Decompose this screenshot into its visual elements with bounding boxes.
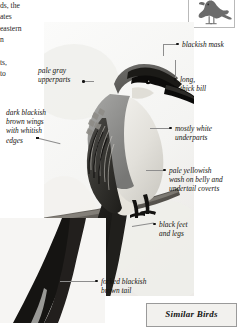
annotation-line: pale yellowish	[169, 166, 223, 175]
body-paragraph-1: ds, the ates eastern n	[0, 0, 44, 46]
leader-line-pale-yellowish-wash	[146, 170, 164, 171]
annotation-line: dark blackish	[6, 108, 46, 117]
photograph-bleed	[0, 218, 106, 323]
leader-dot-mostly-white-underparts	[169, 127, 172, 130]
body-line: ds, the	[0, 0, 44, 11]
leader-line-forked-blackish-brown-tail	[60, 281, 96, 282]
annotation-line: mostly white	[175, 124, 212, 133]
leader-dot-blackish-mask	[176, 43, 179, 46]
annotation-line: pale gray	[38, 66, 70, 75]
annotation-pale-gray-upperparts: pale gray upperparts	[38, 66, 70, 84]
similar-birds-title: Similar Birds	[147, 309, 236, 319]
annotation-pale-yellowish-wash: pale yellowish wash on belly and underta…	[169, 166, 223, 194]
annotation-line: upperparts	[38, 75, 70, 84]
annotation-forked-blackish-brown-tail: forked blackish brown tail	[101, 277, 146, 295]
annotation-line: underparts	[175, 133, 212, 142]
annotation-line: edges	[6, 136, 46, 145]
leader-dot-long-thick-bill	[174, 78, 177, 81]
leader-line-mostly-white-underparts	[150, 128, 170, 129]
leader-line-blackish-mask	[163, 44, 177, 45]
annotation-long-thick-bill: long, thick bill	[180, 75, 206, 93]
body-line: n	[0, 34, 44, 45]
annotation-line: brown tail	[101, 286, 146, 295]
annotation-line: brown wings	[6, 117, 46, 126]
leader-dot-black-feet-and-legs	[153, 223, 156, 226]
leader-dot-pale-yellowish-wash	[163, 169, 166, 172]
similar-birds-box: Similar Birds	[146, 303, 237, 327]
annotation-line: forked blackish	[101, 277, 146, 286]
silhouette-thumbnail-box	[188, 0, 235, 28]
annotation-black-feet-and-legs: black feet and legs	[159, 220, 188, 238]
body-line: eastern	[0, 23, 44, 34]
body-line: ates	[0, 11, 44, 22]
annotation-mostly-white-underparts: mostly white underparts	[175, 124, 212, 142]
leader-line-pale-gray-upperparts	[85, 81, 94, 82]
annotation-line: and legs	[159, 229, 188, 238]
leader-dot-forked-blackish-brown-tail	[95, 280, 98, 283]
tail-bleed-illustration	[0, 218, 106, 323]
annotation-line: long,	[180, 75, 206, 84]
annotation-line: thick bill	[180, 84, 206, 93]
leader-line-blackish-mask-v	[163, 44, 164, 56]
leader-line-long-thick-bill	[175, 60, 176, 78]
annotation-line: black feet	[159, 220, 188, 229]
annotation-line: blackish mask	[182, 40, 224, 49]
annotation-line: undertail coverts	[169, 184, 223, 193]
annotation-blackish-mask: blackish mask	[182, 40, 224, 49]
annotation-line: wash on belly and	[169, 175, 223, 184]
bird-silhouette-icon	[191, 0, 234, 27]
annotation-line: with whitish	[6, 126, 46, 135]
